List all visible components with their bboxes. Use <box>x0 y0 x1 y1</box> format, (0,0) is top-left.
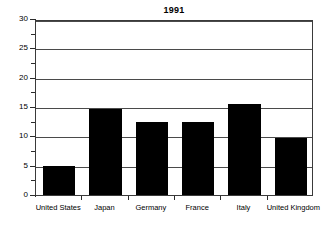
y-tick-label-25: 25 <box>4 44 28 52</box>
y-tick-label-10: 10 <box>4 132 28 140</box>
x-label-united-kingdom: United Kingdom <box>267 203 313 212</box>
x-label-germany: Germany <box>128 203 174 212</box>
y-tick-label-15: 15 <box>4 103 28 111</box>
x-tick-4 <box>220 196 221 200</box>
x-tick-5 <box>267 196 268 200</box>
bar-united-kingdom <box>275 138 307 195</box>
bars-group <box>36 21 312 195</box>
bar-italy <box>228 104 260 195</box>
bar-chart: 1991 051015202530 United StatesJapanGerm… <box>0 0 327 233</box>
x-label-japan: Japan <box>81 203 127 212</box>
y-tick-label-30: 30 <box>4 15 28 23</box>
x-label-france: France <box>174 203 220 212</box>
y-tick-label-20: 20 <box>4 74 28 82</box>
bar-germany <box>136 122 168 195</box>
x-label-italy: Italy <box>220 203 266 212</box>
plot-area <box>35 20 313 196</box>
x-tick-3 <box>174 196 175 200</box>
y-tick-label-0: 0 <box>4 191 28 199</box>
x-tick-1 <box>81 196 82 200</box>
x-label-united-states: United States <box>35 203 81 212</box>
x-tick-2 <box>128 196 129 200</box>
chart-title: 1991 <box>35 5 313 16</box>
bar-united-states <box>43 166 75 195</box>
bar-france <box>182 122 214 195</box>
y-tick-label-5: 5 <box>4 162 28 170</box>
bar-japan <box>89 109 121 195</box>
